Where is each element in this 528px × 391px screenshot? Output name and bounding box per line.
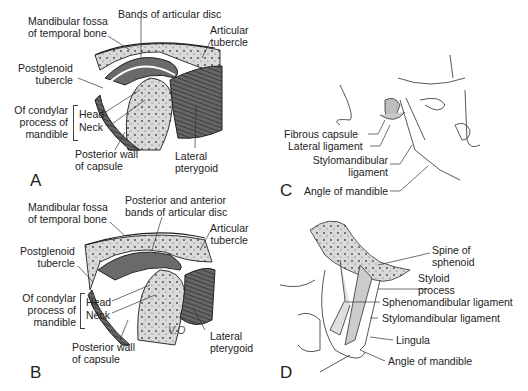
label-b-lateral-pterygoid: Lateral pterygoid: [210, 330, 253, 354]
label-b-condylar-process: Of condylar process of mandible: [18, 292, 76, 328]
label-c-angle-of-mandible: Angle of mandible: [304, 185, 388, 197]
label-c-stylomandibular-ligament: Stylomandibular ligament: [302, 154, 388, 178]
panel-letter-c: C: [280, 182, 292, 200]
label-b-articular-tubercle: Articular tubercle: [210, 222, 249, 246]
label-d-angle-of-mandible: Angle of mandible: [388, 355, 472, 367]
panel-b-drawing: [85, 233, 215, 345]
label-d-lingula: Lingula: [396, 334, 430, 346]
label-a-posterior-wall: Posterior wall of capsule: [75, 148, 138, 172]
label-a-neck: Neck: [79, 121, 103, 133]
label-b-neck: Neck: [86, 309, 110, 321]
label-a-mandibular-fossa: Mandibular fossa of temporal bone: [28, 15, 108, 39]
label-d-stylomandibular-ligament: Stylomandibular ligament: [382, 312, 500, 324]
label-d-sphenomandibular-ligament: Sphenomandibular ligament: [382, 296, 513, 308]
panel-letter-b: B: [30, 364, 41, 382]
label-d-spine-of-sphenoid: Spine of sphenoid: [432, 244, 475, 268]
bracket-a: [73, 105, 78, 141]
panel-letter-a: A: [30, 172, 41, 190]
label-b-posterior-wall: Posterior wall of capsule: [72, 341, 135, 365]
label-d-styloid-process: Styloid process: [418, 272, 455, 296]
tmj-illustrations: [0, 0, 528, 391]
label-a-articular-tubercle: Articular tubercle: [210, 24, 249, 48]
panel-letter-d: D: [280, 364, 292, 382]
label-b-bands-articular-disc: Posterior and anterior bands of articula…: [125, 194, 227, 218]
label-a-condylar-process: Of condylar process of mandible: [10, 104, 68, 140]
label-a-bands-articular-disc: Bands of articular disc: [118, 8, 221, 20]
bracket-b: [80, 293, 85, 329]
label-b-head: Head: [86, 296, 111, 308]
artist-signature: V.O: [168, 324, 185, 336]
label-c-fibrous-capsule: Fibrous capsule: [284, 128, 358, 140]
label-a-postglenoid-tubercle: Postglenoid tubercle: [18, 62, 73, 86]
label-b-postglenoid-tubercle: Postglenoid tubercle: [20, 245, 75, 269]
label-a-head: Head: [79, 108, 104, 120]
label-b-mandibular-fossa: Mandibular fossa of temporal bone: [28, 201, 108, 225]
label-a-lateral-pterygoid: Lateral pterygoid: [175, 150, 218, 174]
panel-a-drawing: [95, 43, 222, 150]
label-c-lateral-ligament: Lateral ligament: [288, 140, 363, 152]
